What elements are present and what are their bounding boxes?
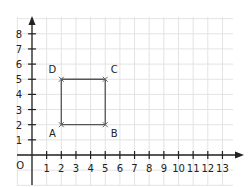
- square-outline: [61, 79, 105, 124]
- x-tick-label: 5: [102, 163, 108, 174]
- x-tick-label: 8: [146, 163, 152, 174]
- y-tick-label: 5: [16, 74, 22, 85]
- x-tick-label: 6: [117, 163, 123, 174]
- y-tick-label: 3: [16, 105, 22, 116]
- x-tick-label: 4: [87, 163, 93, 174]
- x-axis-arrow-icon: [235, 152, 244, 159]
- point-label-c: C: [111, 64, 118, 75]
- y-tick-label: 8: [16, 29, 22, 40]
- origin-label: O: [16, 160, 24, 171]
- tick-labels: 1234567891011121312345678O: [16, 29, 229, 174]
- x-tick-label: 9: [161, 163, 167, 174]
- x-tick-label: 1: [43, 163, 49, 174]
- axes: [17, 16, 244, 185]
- grid-lines: [17, 17, 233, 186]
- y-tick-label: 6: [16, 59, 22, 70]
- x-tick-label: 2: [58, 163, 64, 174]
- x-tick-label: 12: [201, 163, 214, 174]
- y-axis-arrow-icon: [29, 16, 36, 25]
- point-label-b: B: [111, 128, 118, 139]
- x-tick-label: 3: [73, 163, 79, 174]
- x-tick-label: 7: [131, 163, 137, 174]
- point-label-d: D: [48, 64, 56, 75]
- x-tick-label: 13: [216, 163, 229, 174]
- y-tick-label: 4: [16, 89, 22, 100]
- vertex-points: ABCD: [48, 64, 117, 138]
- x-tick-label: 10: [172, 163, 185, 174]
- coordinate-plane: 1234567891011121312345678O ABCD: [0, 0, 251, 187]
- x-tick-label: 11: [187, 163, 200, 174]
- square-abcd: [61, 79, 105, 124]
- y-tick-label: 2: [16, 120, 22, 131]
- y-tick-label: 7: [16, 44, 22, 55]
- y-tick-label: 1: [16, 135, 22, 146]
- point-label-a: A: [49, 128, 56, 139]
